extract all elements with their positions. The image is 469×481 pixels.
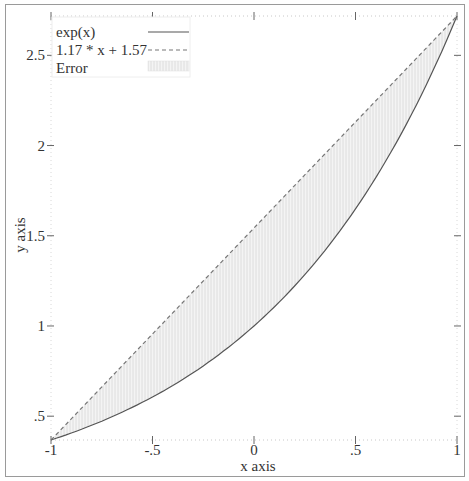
x-tick-label: .5 — [350, 442, 361, 458]
legend-swatch-hatch — [148, 61, 189, 71]
legend-label-linear: 1.17 * x + 1.57 — [56, 42, 147, 58]
legend: exp(x) 1.17 * x + 1.57 Error — [52, 17, 190, 77]
x-tick-label: 1 — [453, 442, 461, 458]
x-tick-label: -1 — [45, 442, 58, 458]
y-axis-title: y axis — [12, 217, 28, 253]
y-tick-label: 1 — [38, 318, 46, 334]
y-tick-label: 2 — [38, 138, 46, 154]
x-axis-title: x axis — [240, 458, 276, 474]
y-tick-label: .5 — [34, 408, 45, 424]
x-tick-label: 0 — [250, 442, 258, 458]
y-tick-label: 1.5 — [26, 228, 45, 244]
x-tick-label: -.5 — [144, 442, 160, 458]
y-tick-label: 2.5 — [26, 47, 45, 63]
legend-label-error: Error — [56, 60, 88, 76]
chart-svg: -1-.50.51 .511.522.5 x axis y axis exp(x… — [0, 0, 469, 481]
legend-label-exp: exp(x) — [56, 24, 95, 41]
